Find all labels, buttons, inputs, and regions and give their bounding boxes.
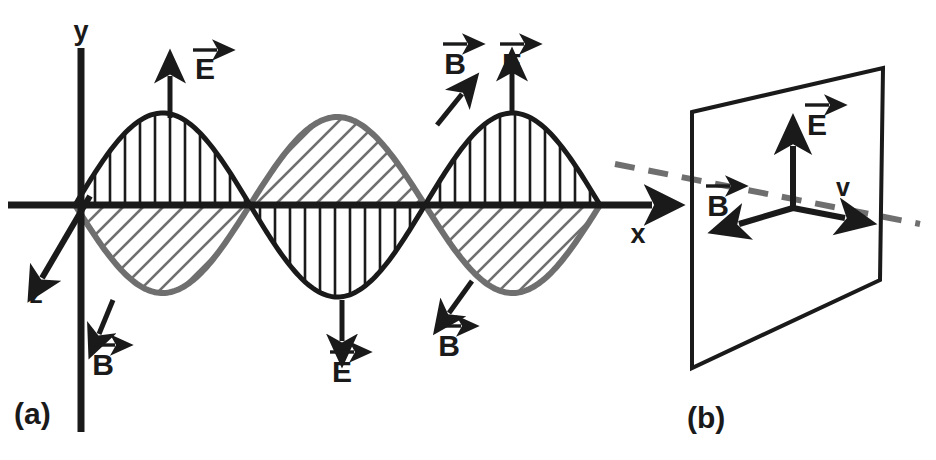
b-vector-arrow (739, 208, 793, 224)
annotation-e-down-middle: E (330, 300, 354, 388)
v-vector-arrow (793, 208, 845, 218)
b-down-arrow-third (449, 281, 472, 313)
v-vector-label: v (836, 173, 850, 201)
e-symbol-third: E (502, 47, 522, 80)
e-label-first: E (193, 50, 217, 85)
panel-b: E B v (b) (615, 68, 920, 434)
annotation-b-third-up: B (437, 44, 467, 125)
em-wave-figure: y x z E B (0, 0, 936, 460)
e-label-middle: E (330, 352, 354, 388)
b-symbol-third: B (438, 329, 460, 362)
annotation-b-origin: B (91, 300, 115, 381)
e-symbol-middle: E (332, 355, 352, 388)
panel-a: y x z E B (0, 16, 865, 432)
b-symbol-origin: B (92, 348, 114, 381)
e-label-third: E (500, 44, 524, 80)
b-label-origin: B (91, 345, 115, 381)
annotation-e-up-first: E (170, 50, 217, 118)
b-label-third: B (437, 326, 461, 362)
panel-b-caption: (b) (687, 401, 725, 434)
annotation-b-third-down: B (437, 281, 472, 362)
e-symbol-first: E (195, 52, 215, 85)
y-axis-label: y (73, 16, 88, 46)
x-axis-label: x (630, 219, 645, 249)
panel-a-caption: (a) (14, 397, 51, 430)
b-label-upper: B (443, 44, 467, 80)
b-down-arrow-origin (99, 300, 113, 334)
e-vector-label: E (807, 108, 827, 141)
panel-b-v-vector: v (793, 173, 850, 218)
b-symbol-upper: B (444, 47, 466, 80)
annotation-e-up-third: E (500, 44, 524, 115)
panel-b-e-vector: E (793, 105, 829, 208)
figure-root: y x z E B (0, 0, 936, 460)
b-up-arrow-third (437, 94, 462, 125)
b-vector-label: B (707, 189, 729, 222)
z-axis-label: z (29, 279, 43, 309)
